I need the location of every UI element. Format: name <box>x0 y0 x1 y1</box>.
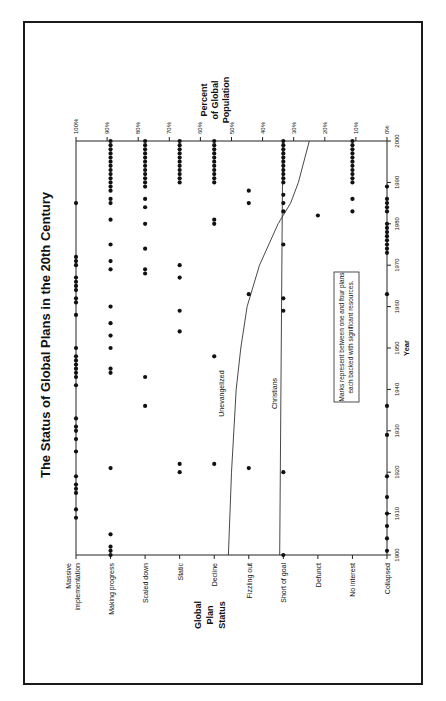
plan-marker <box>108 143 112 147</box>
plan-marker <box>74 437 78 441</box>
year-label: 1920 <box>394 465 400 479</box>
population-lines <box>228 141 309 555</box>
plan-marker <box>281 296 285 300</box>
plan-marker <box>74 487 78 491</box>
percent-axis-title: Population <box>221 77 231 124</box>
plan-marker <box>143 222 147 226</box>
percent-label: 20% <box>322 121 328 134</box>
plan-marker <box>281 180 285 184</box>
plan-marker <box>212 143 216 147</box>
plan-marker <box>143 147 147 151</box>
plan-marker <box>108 466 112 470</box>
plan-marker <box>281 176 285 180</box>
percent-label: 0% <box>384 125 390 134</box>
plan-marker <box>385 474 389 478</box>
plan-marker <box>281 242 285 246</box>
status-label: Defunct <box>315 563 322 587</box>
plan-marker <box>143 176 147 180</box>
year-label: 2000 <box>394 134 400 148</box>
plan-marker <box>247 292 251 296</box>
plan-marker <box>108 305 112 309</box>
plan-marker <box>212 180 216 184</box>
plan-marker <box>385 205 389 209</box>
plan-marker <box>143 267 147 271</box>
plan-marker <box>350 164 354 168</box>
status-axis-title: Plan <box>205 605 215 624</box>
plan-marker <box>281 168 285 172</box>
plan-marker <box>108 189 112 193</box>
year-label: 1930 <box>394 423 400 437</box>
plan-marker <box>350 180 354 184</box>
plan-marker <box>74 255 78 259</box>
plan-marker <box>143 151 147 155</box>
plan-marker <box>74 288 78 292</box>
plan-marker <box>74 491 78 495</box>
plan-marker <box>74 516 78 520</box>
plan-marker <box>212 160 216 164</box>
plan-marker <box>178 276 182 280</box>
plan-marker <box>385 234 389 238</box>
plan-marker <box>281 164 285 168</box>
plan-marker <box>108 259 112 263</box>
plan-marker <box>108 176 112 180</box>
plan-marker <box>74 425 78 429</box>
plan-marker <box>178 151 182 155</box>
plan-marker <box>281 309 285 313</box>
plan-marker <box>74 375 78 379</box>
plan-marker <box>143 143 147 147</box>
unevangelized-label: Unevangelized <box>218 370 226 416</box>
plan-marker <box>178 329 182 333</box>
plan-marker <box>108 267 112 271</box>
plan-marker <box>74 362 78 366</box>
plan-marker <box>108 164 112 168</box>
plan-marker <box>178 168 182 172</box>
percent-label: 40% <box>260 121 266 134</box>
plan-marker <box>143 197 147 201</box>
plan-marker <box>108 242 112 246</box>
year-axis-title: Year <box>402 340 411 356</box>
plan-marker <box>143 139 147 143</box>
plan-marker <box>74 416 78 420</box>
plan-marker <box>143 247 147 251</box>
plan-marker <box>108 139 112 143</box>
plan-marker <box>281 201 285 205</box>
plan-marker <box>385 197 389 201</box>
plan-marker <box>247 466 251 470</box>
plan-marker <box>385 230 389 234</box>
plan-marker <box>281 160 285 164</box>
plan-marker <box>108 532 112 536</box>
plan-marker <box>74 474 78 478</box>
percent-axis-title: of Global <box>210 81 220 120</box>
status-label: No interest <box>349 563 356 597</box>
plan-marker <box>143 375 147 379</box>
percent-label: 70% <box>166 121 172 134</box>
plan-marker <box>143 164 147 168</box>
plan-marker <box>74 483 78 487</box>
plan-marker <box>74 313 78 317</box>
plan-marker <box>108 333 112 337</box>
percent-label: 60% <box>197 121 203 134</box>
note-line-2: each backed with significant resources. <box>347 280 355 393</box>
plan-marker <box>108 172 112 176</box>
plan-marker <box>385 524 389 528</box>
year-label: 1940 <box>394 382 400 396</box>
plan-marker <box>143 271 147 275</box>
plan-marker <box>178 172 182 176</box>
plan-marker <box>350 155 354 159</box>
percent-label: 90% <box>104 121 110 134</box>
plan-marker <box>385 201 389 205</box>
plan-marker <box>385 404 389 408</box>
plan-marker <box>385 184 389 188</box>
year-label: 1910 <box>394 506 400 520</box>
status-label: Massive <box>65 563 72 589</box>
plan-marker <box>108 160 112 164</box>
year-label: 1990 <box>394 175 400 189</box>
status-label: Short of goal <box>280 563 288 603</box>
plan-marker <box>178 180 182 184</box>
plan-marker <box>178 139 182 143</box>
plan-marker <box>74 276 78 280</box>
plan-marker <box>108 545 112 549</box>
plan-marker <box>385 292 389 296</box>
plan-marker <box>178 160 182 164</box>
plan-marker <box>350 160 354 164</box>
